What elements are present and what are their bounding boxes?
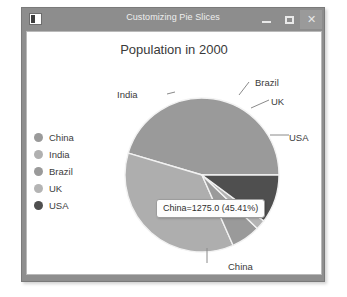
application-window: Customizing Pie Slices ✕ Population in 2… bbox=[21, 7, 325, 282]
legend-label-china: China bbox=[49, 132, 74, 143]
pie-label-india: India bbox=[117, 89, 138, 100]
legend-swatch-brazil bbox=[34, 167, 43, 176]
close-button[interactable]: ✕ bbox=[300, 10, 322, 29]
pie-label-brazil: Brazil bbox=[255, 77, 279, 88]
minimize-button[interactable] bbox=[256, 10, 278, 29]
close-icon: ✕ bbox=[300, 10, 322, 29]
slice-tooltip: China=1275.0 (45.41%) bbox=[156, 199, 265, 218]
leader-line-india bbox=[167, 92, 175, 94]
legend-item-uk[interactable]: UK bbox=[34, 180, 104, 196]
leader-line-brazil bbox=[239, 82, 249, 95]
chart-canvas: Population in 2000 China I bbox=[26, 31, 322, 275]
minimize-icon bbox=[262, 21, 271, 23]
legend-item-china[interactable]: China bbox=[34, 129, 104, 145]
legend-swatch-usa bbox=[34, 201, 43, 210]
legend-swatch-china bbox=[34, 133, 43, 142]
chart-legend: China India Brazil UK USA bbox=[34, 129, 104, 214]
legend-label-usa: USA bbox=[49, 200, 69, 211]
maximize-icon bbox=[285, 16, 294, 24]
maximize-button[interactable] bbox=[278, 10, 300, 29]
window-controls: ✕ bbox=[256, 8, 322, 31]
legend-item-india[interactable]: India bbox=[34, 146, 104, 162]
legend-item-usa[interactable]: USA bbox=[34, 197, 104, 213]
legend-label-india: India bbox=[49, 149, 70, 160]
screenshot-root: Customizing Pie Slices ✕ Population in 2… bbox=[0, 0, 347, 297]
pie-label-usa: USA bbox=[289, 132, 309, 143]
legend-swatch-india bbox=[34, 150, 43, 159]
legend-item-brazil[interactable]: Brazil bbox=[34, 163, 104, 179]
pie-label-china: China bbox=[228, 261, 253, 272]
leader-line-uk bbox=[251, 100, 269, 108]
pie-slice-group bbox=[125, 98, 279, 252]
legend-swatch-uk bbox=[34, 184, 43, 193]
window-titlebar[interactable]: Customizing Pie Slices ✕ bbox=[22, 8, 324, 31]
pie-label-uk: UK bbox=[271, 96, 284, 107]
legend-label-brazil: Brazil bbox=[49, 166, 73, 177]
legend-label-uk: UK bbox=[49, 183, 62, 194]
